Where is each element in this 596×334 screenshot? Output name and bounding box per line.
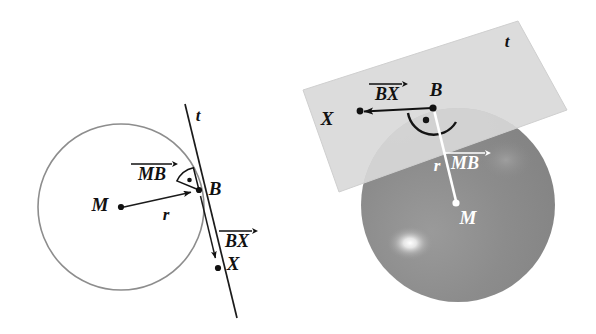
label-point-x-2d: X	[226, 253, 241, 274]
label-point-m-2d: M	[91, 194, 110, 215]
sphere-specular-highlight	[387, 226, 433, 260]
label-vector-bx-2d: BX	[219, 228, 258, 251]
geometry-figure: M B X r t MB BX	[0, 0, 596, 334]
label-radius-r-3d: r	[434, 156, 441, 175]
tangent-line-t	[185, 104, 237, 318]
right-angle-marker-dot	[187, 178, 192, 183]
vector-bx-overbar-arrowhead-2d	[252, 228, 258, 234]
svg-text:MB: MB	[137, 164, 166, 184]
point-m-dot	[118, 204, 124, 210]
label-point-m-3d: M	[459, 207, 478, 228]
point-b-dot-3d	[429, 104, 436, 111]
label-point-x-3d: X	[320, 108, 335, 129]
point-b-dot	[196, 187, 202, 193]
label-point-b-3d: B	[429, 79, 443, 100]
svg-text:BX: BX	[224, 231, 250, 251]
point-x-dot	[215, 265, 221, 271]
label-tangent-line-t-2d: t	[196, 106, 202, 125]
point-x-dot-3d	[357, 108, 364, 115]
svg-text:MB: MB	[450, 153, 479, 173]
vector-mb-overbar-arrowhead-2d	[172, 161, 178, 167]
vector-mb-shaft	[124, 192, 191, 207]
panel-circle-tangent-line-2d: M B X r t MB BX	[0, 0, 298, 334]
label-radius-r-2d: r	[163, 205, 170, 224]
label-vector-mb-2d: MB	[131, 161, 178, 184]
vector-bx-shaft	[201, 196, 216, 258]
svg-text:BX: BX	[374, 84, 400, 104]
angle-marker-dot-3d	[423, 117, 429, 123]
panel-sphere-tangent-plane-3d: t B X M r BX MB	[298, 0, 596, 334]
label-point-b-2d: B	[208, 178, 222, 199]
sphere-secondary-highlight	[480, 140, 532, 180]
point-m-dot-3d	[452, 199, 459, 206]
